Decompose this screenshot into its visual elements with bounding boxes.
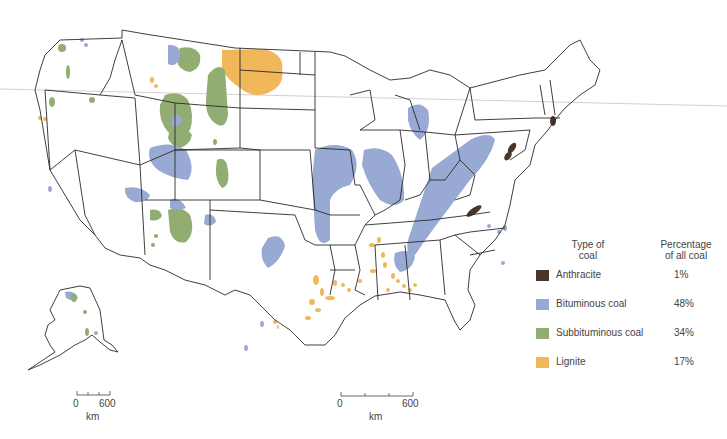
scale-main-start: 0 xyxy=(337,398,343,409)
legend-row-bituminous: Bituminous coal 48% xyxy=(536,294,726,323)
legend-percent: 1% xyxy=(674,269,688,280)
legend-label: Lignite xyxy=(556,356,585,367)
scale-main-unit: km xyxy=(369,411,382,422)
legend-header: Type of coal Percentage of all coal xyxy=(536,237,726,265)
legend-label: Subbituminous coal xyxy=(556,327,643,338)
legend-label: Bituminous coal xyxy=(556,298,627,309)
legend-label: Anthracite xyxy=(556,269,601,280)
scale-bar-alaska xyxy=(77,391,110,395)
scale-alaska-unit: km xyxy=(86,411,99,422)
legend-percentage-header: Percentage of all coal xyxy=(650,239,722,261)
legend-row-subbituminous: Subbituminous coal 34% xyxy=(536,323,726,352)
bituminous-swatch xyxy=(536,299,549,310)
legend-row-anthracite: Anthracite 1% xyxy=(536,265,726,294)
scale-main-end: 600 xyxy=(402,398,419,409)
legend-percent: 48% xyxy=(674,298,694,309)
lignite-swatch xyxy=(536,357,549,368)
legend-percent: 17% xyxy=(674,356,694,367)
legend-row-lignite: Lignite 17% xyxy=(536,352,726,381)
scale-bar-main xyxy=(341,392,413,396)
legend: Type of coal Percentage of all coal Anth… xyxy=(536,237,726,381)
legend-percent: 34% xyxy=(674,327,694,338)
alaska-inset xyxy=(28,286,118,370)
anthracite-swatch xyxy=(536,270,549,281)
legend-type-header: Type of coal xyxy=(564,239,612,261)
scale-alaska-start: 0 xyxy=(73,398,79,409)
subbituminous-swatch xyxy=(536,328,549,339)
scale-alaska-end: 600 xyxy=(99,398,116,409)
